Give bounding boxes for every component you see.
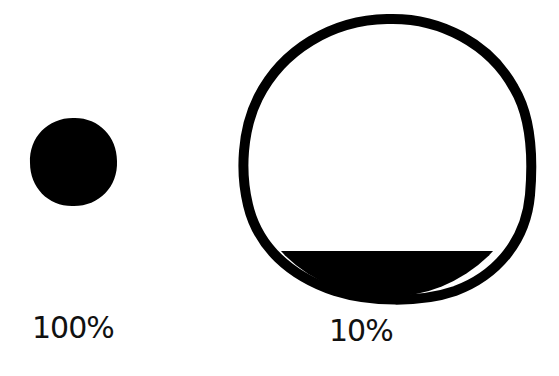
partial-circle-label: 10% [329,316,393,346]
diagram-canvas: 100% 10% [0,0,559,376]
full-fill-shape [30,118,117,206]
large-partial-circle [240,19,540,311]
full-circle-label: 100% [32,313,114,343]
small-full-circle [30,118,117,206]
